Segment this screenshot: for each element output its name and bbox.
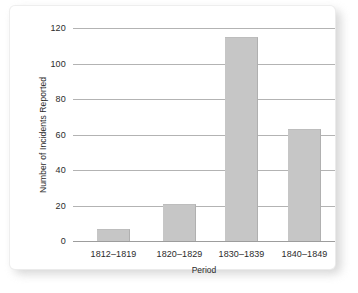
bar-1820-1829[interactable] (163, 204, 196, 241)
x-tick-label-2: 1830–1839 (219, 249, 265, 259)
gridline-baseline-0: 0 (73, 241, 335, 242)
bars-layer (73, 28, 335, 241)
y-tick-label-100: 100 (50, 59, 66, 69)
y-tick-label-20: 20 (56, 201, 66, 211)
y-tick-label-0: 0 (61, 236, 66, 246)
x-tick-label-0: 1812–1819 (91, 249, 137, 259)
y-tick-label-40: 40 (56, 165, 66, 175)
figure-root: Number of Incidents Reported 120 100 80 … (0, 0, 358, 293)
x-axis-title: Period (73, 265, 335, 275)
y-tick-label-80: 80 (56, 94, 66, 104)
chart-card: Number of Incidents Reported 120 100 80 … (10, 6, 335, 269)
bar-1830-1839[interactable] (225, 37, 258, 241)
x-tick-label-3: 1840–1849 (282, 249, 328, 259)
y-axis-title-label: Number of Incidents Reported (38, 76, 48, 192)
bar-1812-1819[interactable] (97, 229, 130, 241)
x-tick-label-1: 1820–1829 (157, 249, 203, 259)
plot-area: 120 100 80 60 40 20 0 (73, 28, 335, 241)
y-tick-label-120: 120 (50, 23, 66, 33)
y-axis-title: Number of Incidents Reported (37, 28, 49, 241)
y-tick-label-60: 60 (56, 130, 66, 140)
bar-1840-1849[interactable] (288, 129, 321, 241)
